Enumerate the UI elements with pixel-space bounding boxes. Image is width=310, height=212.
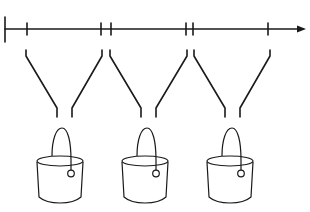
- bucket-body: [207, 162, 253, 203]
- funnel-1-left-wall: [26, 50, 57, 117]
- funnel-2-right-wall: [156, 50, 187, 117]
- funnel-2-left-wall: [110, 50, 141, 117]
- timeline-funnel-diagram: [0, 0, 310, 212]
- bucket-body: [122, 162, 168, 203]
- bucket-rivet-icon: [153, 170, 160, 177]
- funnel-1: [26, 50, 102, 117]
- funnel-1-right-wall: [72, 50, 102, 117]
- bucket-2: [122, 128, 168, 203]
- bucket-rivet-icon: [68, 170, 75, 177]
- bucket-1: [37, 128, 83, 203]
- bucket-3: [207, 128, 253, 203]
- timeline-axis: [5, 17, 306, 42]
- bucket-body: [37, 162, 83, 203]
- bucket-rim: [122, 156, 168, 166]
- arrow-head-icon: [297, 26, 306, 33]
- funnel-3-right-wall: [240, 50, 270, 117]
- funnel-3: [194, 50, 270, 117]
- bucket-rim: [207, 156, 253, 166]
- funnel-2: [110, 50, 187, 117]
- bucket-handle-icon: [52, 128, 71, 171]
- bucket-handle-icon: [222, 128, 241, 171]
- bucket-rim: [37, 156, 83, 166]
- bucket-handle-icon: [137, 128, 156, 171]
- bucket-rivet-icon: [238, 170, 245, 177]
- funnel-3-left-wall: [194, 50, 225, 117]
